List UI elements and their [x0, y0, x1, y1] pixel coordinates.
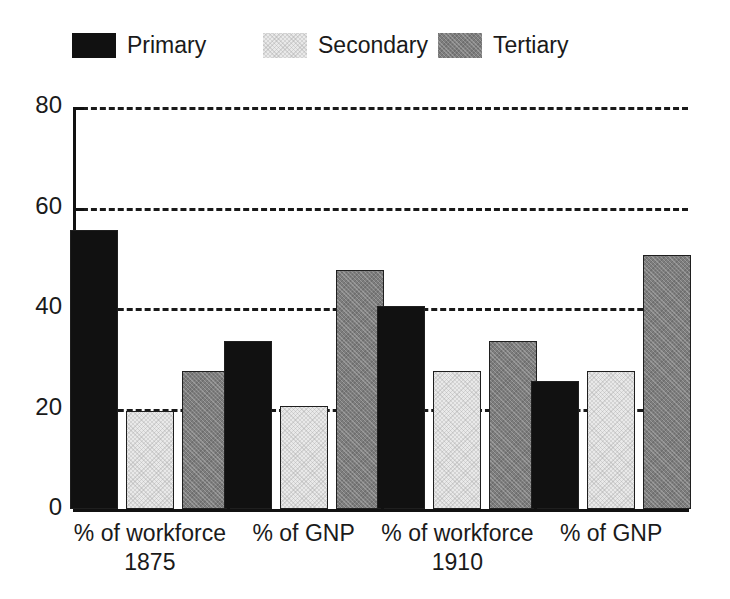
- x-group-separator-tick-3: [534, 497, 537, 510]
- plot-area: [73, 107, 688, 509]
- y-axis-tick-labels: 806040200: [0, 0, 62, 599]
- bar-secondary-group-2: [280, 406, 328, 509]
- bar-secondary-group-1: [126, 411, 174, 509]
- x-group-separator-tick-2: [381, 497, 384, 510]
- bar-chart: Primary Secondary Tertiary 806040200 % o…: [0, 0, 730, 599]
- legend-swatch-tertiary-icon: [438, 33, 482, 58]
- legend-item-tertiary[interactable]: Tertiary: [438, 30, 568, 60]
- y-tick-label-40: 40: [4, 294, 62, 318]
- legend-swatch-primary-icon: [72, 33, 116, 58]
- y-tick-label-80: 80: [4, 93, 62, 117]
- gridline-60: [73, 208, 688, 211]
- legend-label-tertiary: Tertiary: [493, 34, 568, 57]
- x-group-label-primary-1: % of workforce: [74, 520, 226, 546]
- x-group-period-1: 1875: [73, 548, 227, 577]
- x-group-label-4: % of GNP: [534, 519, 688, 548]
- bar-tertiary-group-4: [643, 255, 691, 509]
- legend-item-primary[interactable]: Primary: [72, 30, 206, 60]
- legend-swatch-secondary-icon: [263, 33, 307, 58]
- legend-label-primary: Primary: [127, 34, 206, 57]
- bar-primary-group-3: [377, 306, 425, 510]
- bar-primary-group-4: [531, 381, 579, 509]
- chart-legend: Primary Secondary Tertiary: [0, 0, 730, 90]
- x-group-label-primary-4: % of GNP: [560, 520, 662, 546]
- legend-item-secondary[interactable]: Secondary: [263, 30, 428, 60]
- y-tick-mark-20: [73, 409, 84, 412]
- x-group-label-primary-2: % of GNP: [252, 520, 354, 546]
- y-tick-mark-40: [73, 308, 84, 311]
- bar-secondary-group-3: [433, 371, 481, 509]
- legend-label-secondary: Secondary: [318, 34, 428, 57]
- x-group-separator-tick-1: [227, 497, 230, 510]
- bar-secondary-group-4: [587, 371, 635, 509]
- y-tick-mark-60: [73, 208, 84, 211]
- x-group-label-1: % of workforce1875: [73, 519, 227, 576]
- bar-primary-group-1: [70, 230, 118, 509]
- x-group-period-3: 1910: [381, 548, 535, 577]
- y-tick-mark-80: [73, 107, 84, 110]
- bar-primary-group-2: [224, 341, 272, 509]
- x-group-label-primary-3: % of workforce: [381, 520, 533, 546]
- y-tick-label-60: 60: [4, 194, 62, 218]
- y-tick-label-20: 20: [4, 395, 62, 419]
- x-group-label-3: % of workforce1910: [381, 519, 535, 576]
- y-tick-label-0: 0: [4, 495, 62, 519]
- x-group-label-2: % of GNP: [227, 519, 381, 548]
- gridline-80: [73, 107, 688, 110]
